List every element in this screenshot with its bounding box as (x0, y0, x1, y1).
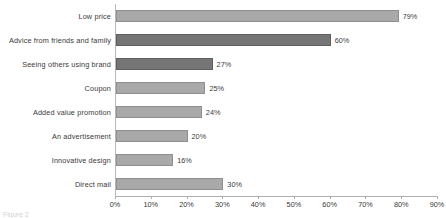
category-label: Coupon (85, 84, 111, 93)
bar-row: Seeing others using brand27% (0, 52, 446, 76)
bar-chart: Low price79%Advice from friends and fami… (0, 0, 446, 218)
bar (116, 178, 223, 190)
bar-row: An advertisement20% (0, 124, 446, 148)
bar-row: Coupon25% (0, 76, 446, 100)
x-tick (115, 196, 116, 199)
bar-value-label: 79% (403, 12, 418, 21)
x-tick-label: 90% (430, 200, 445, 209)
bar (116, 82, 205, 94)
bar-value-label: 60% (335, 36, 350, 45)
category-label: Innovative design (52, 156, 111, 165)
bar-row: Advice from friends and family60% (0, 28, 446, 52)
x-tick (401, 196, 402, 199)
x-tick (258, 196, 259, 199)
category-label: Advice from friends and family (9, 36, 111, 45)
bar-value-label: 27% (217, 60, 232, 69)
bar (116, 130, 188, 142)
x-tick-label: 70% (358, 200, 373, 209)
x-tick-label: 0% (110, 200, 121, 209)
figure-caption: Figure 2 (3, 211, 29, 218)
x-tick-label: 30% (215, 200, 230, 209)
x-tick (187, 196, 188, 199)
bar (116, 58, 213, 70)
category-label: Seeing others using brand (22, 60, 111, 69)
x-tick (365, 196, 366, 199)
bar-value-label: 24% (206, 108, 221, 117)
bar-value-label: 30% (227, 180, 242, 189)
bar (116, 154, 173, 166)
bar (116, 10, 399, 22)
bar-value-label: 16% (177, 156, 192, 165)
category-label: An advertisement (52, 132, 111, 141)
category-label: Direct mail (75, 180, 111, 189)
x-axis-line (115, 196, 437, 197)
category-label: Added value promotion (33, 108, 111, 117)
plot-area: Low price79%Advice from friends and fami… (0, 0, 446, 218)
x-tick-label: 40% (251, 200, 266, 209)
bar-value-label: 25% (209, 84, 224, 93)
bar-value-label: 20% (192, 132, 207, 141)
bar-row: Direct mail30% (0, 172, 446, 196)
bar-row: Innovative design16% (0, 148, 446, 172)
bar (116, 34, 331, 46)
x-tick (330, 196, 331, 199)
x-tick (437, 196, 438, 199)
x-tick-label: 10% (143, 200, 158, 209)
bar (116, 106, 202, 118)
x-tick-label: 80% (394, 200, 409, 209)
x-tick-label: 50% (287, 200, 302, 209)
x-tick (151, 196, 152, 199)
x-tick-label: 20% (179, 200, 194, 209)
x-tick (222, 196, 223, 199)
x-tick (294, 196, 295, 199)
x-tick-label: 60% (322, 200, 337, 209)
category-label: Low price (78, 12, 111, 21)
bar-row: Added value promotion24% (0, 100, 446, 124)
bar-row: Low price79% (0, 4, 446, 28)
